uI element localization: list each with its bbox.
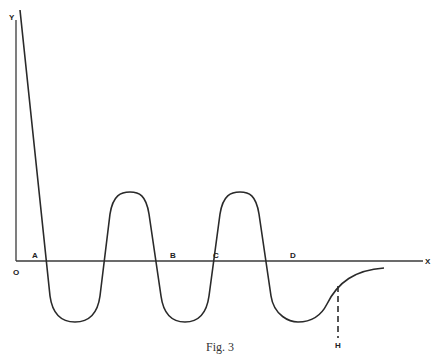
point-label-c: C <box>213 251 219 260</box>
origin-label: O <box>13 268 19 277</box>
wave-curve <box>20 10 384 322</box>
figure-caption: Fig. 3 <box>0 340 440 355</box>
point-label-a: A <box>32 251 38 260</box>
point-label-b: B <box>170 251 176 260</box>
x-axis-label: X <box>425 257 431 266</box>
oscillation-diagram: Y O X A B C D H <box>0 0 440 363</box>
y-axis-label: Y <box>9 13 15 22</box>
point-label-d: D <box>290 251 296 260</box>
